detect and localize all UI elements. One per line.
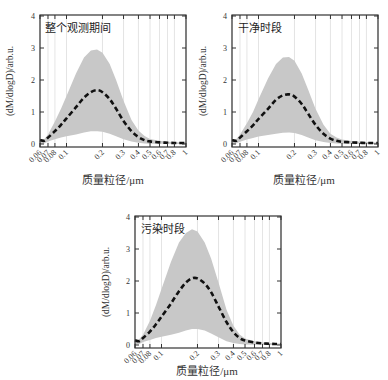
y-tick-label: 3 bbox=[223, 44, 227, 53]
y-tick-label: 2 bbox=[126, 277, 130, 286]
y-tick-label: 0 bbox=[31, 140, 35, 149]
y-tick-label: 2 bbox=[223, 76, 227, 85]
x-axis-label: 质量粒径/μm bbox=[82, 173, 144, 186]
panel-title: 干净时段 bbox=[238, 21, 282, 34]
chart-svg: 012340.060.070.080.10.20.30.40.50.60.70.… bbox=[97, 186, 291, 380]
y-axis-label: (dM/dlogD)/arb.u. bbox=[101, 247, 112, 317]
y-tick-label: 1 bbox=[126, 309, 130, 318]
x-tick-label: 0.2 bbox=[92, 148, 105, 161]
y-tick-label: 4 bbox=[31, 12, 35, 21]
chart-svg: 012340.060.070.080.10.20.30.40.50.60.70.… bbox=[0, 0, 194, 190]
x-tick-label: 1 bbox=[275, 349, 284, 358]
x-tick-label: 0.2 bbox=[187, 349, 200, 362]
y-axis-label: (dM/dlogD)/arb.u. bbox=[5, 46, 16, 116]
x-tick-label: 1 bbox=[372, 148, 381, 157]
x-axis-label: 质量粒径/μm bbox=[273, 173, 335, 186]
x-axis-label: 质量粒径/μm bbox=[176, 364, 238, 377]
y-tick-label: 3 bbox=[31, 44, 35, 53]
y-tick-label: 2 bbox=[31, 76, 35, 85]
y-tick-label: 4 bbox=[126, 213, 130, 222]
x-tick-label: 0.3 bbox=[305, 148, 318, 161]
x-tick-label: 1 bbox=[180, 148, 189, 157]
chart-panel-polluted-period: 012340.060.070.080.10.20.30.40.50.60.70.… bbox=[97, 186, 291, 380]
y-tick-label: 1 bbox=[223, 108, 227, 117]
chart-svg: 012340.060.070.080.10.20.30.40.50.60.70.… bbox=[194, 0, 388, 190]
panel-title: 整个观测期间 bbox=[45, 21, 111, 34]
std-band bbox=[40, 50, 186, 144]
y-axis-label: (dM/dlogD)/arb.u. bbox=[198, 46, 209, 116]
x-tick-label: 0.1 bbox=[248, 148, 261, 161]
y-tick-label: 0 bbox=[126, 341, 130, 350]
y-tick-label: 0 bbox=[223, 140, 227, 149]
panel-title: 污染时段 bbox=[141, 222, 185, 235]
y-tick-label: 1 bbox=[31, 108, 35, 117]
y-tick-label: 3 bbox=[126, 245, 130, 254]
x-tick-label: 0.1 bbox=[56, 148, 69, 161]
x-tick-label: 0.2 bbox=[284, 148, 297, 161]
y-tick-label: 4 bbox=[223, 12, 227, 21]
chart-panel-whole-period: 012340.060.070.080.10.20.30.40.50.60.70.… bbox=[0, 0, 194, 190]
x-tick-label: 0.1 bbox=[151, 349, 164, 362]
x-tick-label: 0.3 bbox=[208, 349, 221, 362]
x-tick-label: 0.3 bbox=[113, 148, 126, 161]
std-band bbox=[232, 57, 378, 144]
chart-panel-clean-period: 012340.060.070.080.10.20.30.40.50.60.70.… bbox=[194, 0, 388, 190]
